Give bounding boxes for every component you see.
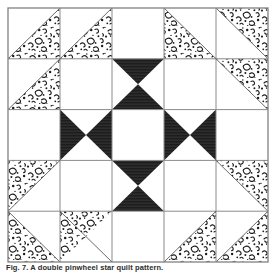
quilt-block-figure: Fig. 7. A double pinwheel star quilt pat…: [0, 0, 277, 274]
patch-r4c2-plain: [112, 211, 164, 262]
quilt-block-diagram: [0, 0, 277, 274]
patch-r2c4-plain: [216, 110, 268, 161]
patch-r0c2-plain: [112, 8, 164, 59]
block-body: [8, 8, 268, 262]
patch-r3c1-plain: [60, 160, 112, 211]
patch-r2c2-center-plain: [112, 110, 164, 161]
patch-r3c3-plain: [164, 160, 216, 211]
patch-r1c1-plain: [60, 59, 112, 110]
patch-r1c3-plain: [164, 59, 216, 110]
patch-r2c0-plain: [8, 110, 60, 161]
figure-caption: Fig. 7. A double pinwheel star quilt pat…: [6, 264, 271, 272]
